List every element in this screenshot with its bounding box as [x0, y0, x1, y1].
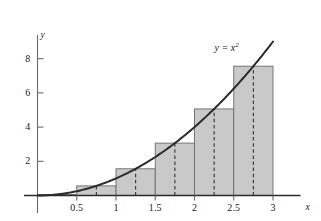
curve-equation-label: y = x2	[215, 42, 239, 53]
x-tick-label: 2	[181, 202, 209, 213]
y-tick-label: 4	[14, 121, 31, 132]
curve-equation-base: y = x	[215, 42, 236, 53]
plot-canvas	[0, 0, 321, 221]
y-tick-label: 6	[14, 87, 31, 98]
y-tick-label: 8	[14, 53, 31, 64]
x-tick-label: 1	[102, 202, 130, 213]
x-tick-label: 2.5	[220, 202, 248, 213]
curve-equation-exponent: 2	[235, 41, 239, 49]
y-tick-label: 2	[14, 155, 31, 166]
x-tick-label: 0.5	[63, 202, 91, 213]
x-axis-label: x	[305, 202, 309, 212]
y-axis-label: y	[41, 30, 45, 40]
figure-midpoint-riemann-sum: y x y = x2 0.511.522.532468	[0, 0, 321, 221]
x-tick-label: 1.5	[141, 202, 169, 213]
x-tick-label: 3	[259, 202, 287, 213]
